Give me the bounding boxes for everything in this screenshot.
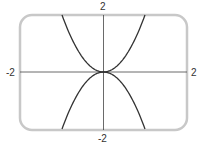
y-max-label: 2 bbox=[100, 2, 106, 12]
graph bbox=[0, 0, 205, 151]
x-max-label: 2 bbox=[191, 68, 197, 78]
x-min-label: -2 bbox=[6, 68, 15, 78]
y-min-label: -2 bbox=[98, 134, 107, 144]
